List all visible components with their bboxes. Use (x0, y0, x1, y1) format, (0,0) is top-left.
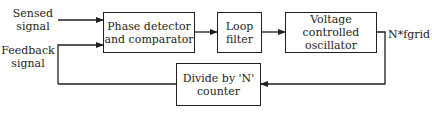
sensed-signal-label: Sensed signal (10, 7, 56, 33)
loop-filter-block: Loop filter (217, 12, 262, 53)
feedback-arrow (58, 45, 103, 84)
feedback-signal-label: Feedback signal (0, 44, 56, 70)
vco-block: Voltage controlled oscillator (285, 12, 377, 53)
phase-detector-block: Phase detector and comparator (103, 12, 195, 53)
output-label: N*fgrid (388, 28, 432, 41)
divider-block: Divide by 'N' counter (176, 63, 261, 106)
